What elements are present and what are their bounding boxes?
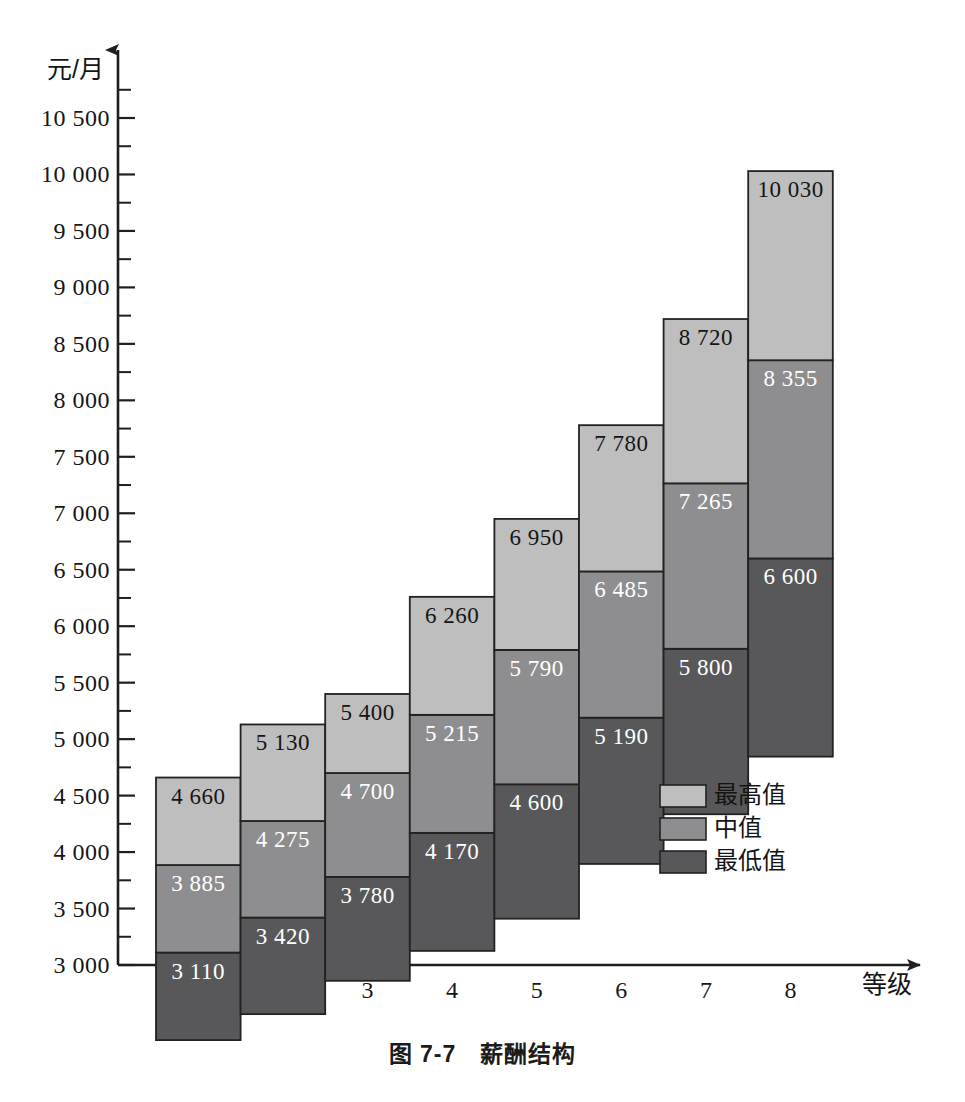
y-tick-label: 3 500 xyxy=(54,896,111,922)
bar-value-label: 6 485 xyxy=(594,577,648,602)
bar-group-8: 6 6008 35510 030 xyxy=(748,171,833,757)
y-tick-label: 8 500 xyxy=(54,331,111,357)
bar-group-3: 3 7804 7005 400 xyxy=(325,694,410,981)
legend-swatch xyxy=(660,818,706,840)
legend-label: 最低值 xyxy=(714,847,786,874)
y-tick-label: 10 500 xyxy=(41,105,110,131)
bar-value-label: 4 170 xyxy=(425,839,479,864)
bar-group-5: 4 6005 7906 950 xyxy=(494,519,579,919)
bar-value-label: 5 800 xyxy=(679,655,733,680)
y-tick-label: 9 000 xyxy=(54,274,111,300)
bar-value-label: 5 130 xyxy=(256,730,310,755)
bar-value-label: 5 400 xyxy=(340,700,394,725)
bar-group-4: 4 1705 2156 260 xyxy=(410,597,495,951)
figure-caption: 图 7-7 薪酬结构 xyxy=(0,1035,965,1069)
bar-value-label: 8 720 xyxy=(679,325,733,350)
y-tick-label: 6 500 xyxy=(54,557,111,583)
legend-swatch xyxy=(660,851,706,873)
y-tick-label: 4 000 xyxy=(54,839,111,865)
y-tick-label: 8 000 xyxy=(54,387,111,413)
y-tick-label: 5 500 xyxy=(54,670,111,696)
y-tick-label: 4 500 xyxy=(54,783,111,809)
bar-group-1: 3 1103 8854 660 xyxy=(156,778,241,1041)
legend-label: 中值 xyxy=(714,814,762,841)
y-tick-label: 5 000 xyxy=(54,726,111,752)
bar-value-label: 5 190 xyxy=(594,724,648,749)
bars-group: 3 1103 8854 6603 4204 2755 1303 7804 700… xyxy=(156,171,833,1040)
y-tick-label: 3 000 xyxy=(54,952,111,978)
bar-value-label: 4 600 xyxy=(510,790,564,815)
y-axis-ticks xyxy=(118,90,135,965)
y-axis-title: 元/月 xyxy=(47,55,104,83)
legend-label: 最高值 xyxy=(714,781,786,808)
bar-value-label: 5 790 xyxy=(510,656,564,681)
x-tick-label: 5 xyxy=(531,977,543,1003)
x-tick-label: 7 xyxy=(700,977,712,1003)
chart-legend: 最高值中值最低值 xyxy=(660,781,786,874)
y-tick-label: 7 000 xyxy=(54,500,111,526)
bar-value-label: 4 275 xyxy=(256,827,310,852)
x-tick-label: 4 xyxy=(446,977,458,1003)
bar-value-label: 4 700 xyxy=(340,779,394,804)
salary-structure-chart: 元/月 3 0003 5004 0004 5005 0005 5006 0006… xyxy=(0,0,965,1102)
bar-group-7: 5 8007 2658 720 xyxy=(664,319,749,814)
chart-canvas: 元/月 3 0003 5004 0004 5005 0005 5006 0006… xyxy=(0,0,965,1102)
bar-value-label: 6 600 xyxy=(763,564,817,589)
y-tick-label: 6 000 xyxy=(54,613,111,639)
bar-group-6: 5 1906 4857 780 xyxy=(579,425,664,864)
bar-value-label: 6 950 xyxy=(510,525,564,550)
legend-swatch xyxy=(660,785,706,807)
x-axis-title: 等级 xyxy=(862,970,912,998)
y-axis: 元/月 3 0003 5004 0004 5005 0005 5006 0006… xyxy=(41,50,135,978)
bar-value-label: 8 355 xyxy=(763,366,817,391)
x-tick-label: 8 xyxy=(785,977,797,1003)
y-axis-tick-labels: 3 0003 5004 0004 5005 0005 5006 0006 500… xyxy=(41,105,110,978)
x-tick-label: 6 xyxy=(615,977,627,1003)
bar-value-label: 5 215 xyxy=(425,721,479,746)
bar-group-2: 3 4204 2755 130 xyxy=(241,724,326,1014)
y-tick-label: 10 000 xyxy=(41,161,110,187)
bar-value-label: 10 030 xyxy=(757,177,823,202)
bar-value-label: 3 885 xyxy=(171,871,225,896)
bar-value-label: 3 780 xyxy=(340,883,394,908)
y-tick-label: 7 500 xyxy=(54,444,111,470)
bar-value-label: 3 420 xyxy=(256,924,310,949)
y-tick-label: 9 500 xyxy=(54,218,111,244)
bar-value-label: 6 260 xyxy=(425,603,479,628)
bar-value-label: 7 265 xyxy=(679,489,733,514)
bar-value-label: 7 780 xyxy=(594,431,648,456)
bar-value-label: 3 110 xyxy=(172,959,225,984)
bar-value-label: 4 660 xyxy=(171,784,225,809)
